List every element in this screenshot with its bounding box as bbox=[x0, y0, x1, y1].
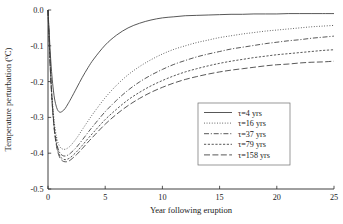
x-axis-title: Year following eruption bbox=[150, 205, 233, 215]
y-tick-label: -0.4 bbox=[31, 149, 44, 158]
legend-label[interactable]: τ=79 yrs bbox=[238, 140, 266, 149]
axes: 05101520250.0-0.1-0.2-0.3-0.4-0.5 bbox=[31, 6, 339, 202]
curve-solid bbox=[48, 10, 334, 112]
legend-label[interactable]: τ=158 yrs bbox=[238, 151, 270, 160]
legend-label[interactable]: τ=37 yrs bbox=[238, 130, 266, 139]
legend-label[interactable]: τ=16 yrs bbox=[238, 119, 266, 128]
y-axis-title: Temperature perturbation (oC) bbox=[3, 47, 13, 151]
data-curves bbox=[48, 10, 334, 162]
curve-dashed-short bbox=[48, 10, 334, 160]
x-tick-label: 5 bbox=[103, 193, 107, 202]
y-tick-label: -0.2 bbox=[31, 78, 44, 87]
x-tick-label: 20 bbox=[273, 193, 281, 202]
x-tick-label: 10 bbox=[158, 193, 166, 202]
curve-longdash bbox=[48, 10, 334, 162]
y-tick-label: -0.5 bbox=[31, 185, 44, 194]
legend[interactable]: τ=4 yrsτ=16 yrsτ=37 yrsτ=79 yrsτ=158 yrs bbox=[198, 103, 290, 165]
x-tick-label: 0 bbox=[46, 193, 50, 202]
curve-dashdot bbox=[48, 10, 334, 156]
x-tick-label: 15 bbox=[216, 193, 224, 202]
line-chart: 05101520250.0-0.1-0.2-0.3-0.4-0.5 Year f… bbox=[0, 0, 343, 224]
chart-figure: 05101520250.0-0.1-0.2-0.3-0.4-0.5 Year f… bbox=[0, 0, 343, 224]
y-tick-label: -0.3 bbox=[31, 113, 44, 122]
legend-label[interactable]: τ=4 yrs bbox=[238, 109, 262, 118]
y-tick-label: -0.1 bbox=[31, 42, 44, 51]
x-tick-label: 25 bbox=[330, 193, 338, 202]
y-tick-label: 0.0 bbox=[33, 6, 43, 15]
